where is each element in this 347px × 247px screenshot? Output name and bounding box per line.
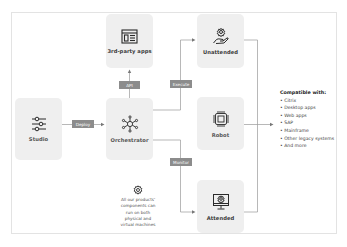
compatible-title: Compatible with: xyxy=(280,89,334,97)
edge-label-api: API xyxy=(119,81,140,89)
arrow-head-monitor xyxy=(192,210,196,213)
node-label: Studio xyxy=(29,136,48,142)
node-label: Orchestrator xyxy=(110,137,148,143)
node-label: Attended xyxy=(207,215,235,221)
compatible-list: Compatible with: • Citrix • Desktop apps… xyxy=(280,89,334,150)
hand-gear-icon xyxy=(212,27,230,45)
network-hub-icon xyxy=(121,115,139,133)
compatible-item: • Citrix xyxy=(280,97,334,105)
edge-label-deploy: Deploy xyxy=(72,120,94,128)
compatible-item: • Mainframe xyxy=(280,127,334,135)
arrow-head-api xyxy=(128,70,131,74)
chip-icon xyxy=(212,110,230,128)
arrow-head-compat xyxy=(270,123,274,126)
sliders-icon xyxy=(31,116,47,132)
compatible-item: • Web apps xyxy=(280,112,334,120)
node-orchestrator[interactable]: Orchestrator xyxy=(106,98,153,160)
compatible-item: • SAP xyxy=(280,119,334,127)
node-label: 3rd-party apps xyxy=(107,48,151,54)
edge-label-monitor: Monitor xyxy=(170,158,192,166)
edge-execute xyxy=(153,40,193,110)
node-label: Robot xyxy=(212,132,230,138)
compatible-item: • Desktop apps xyxy=(280,104,334,112)
arrow-head-deploy xyxy=(101,123,105,126)
note-line: virtual machines xyxy=(108,222,168,228)
node-attended[interactable]: Attended xyxy=(197,180,244,233)
node-robot[interactable]: Robot xyxy=(197,97,244,150)
node-unattended[interactable]: Unattended xyxy=(197,14,244,68)
edge-bracket-top xyxy=(244,40,258,212)
compatible-item: • And more xyxy=(280,142,334,150)
browser-window-icon xyxy=(121,29,138,44)
node-label: Unattended xyxy=(203,49,238,55)
node-studio[interactable]: Studio xyxy=(15,98,62,160)
arrow-head-execute xyxy=(192,38,196,41)
compatible-item: • Other legacy systems xyxy=(280,135,334,143)
note-block: All our products' components can run on … xyxy=(108,185,168,228)
edge-label-execute: Execute xyxy=(170,80,192,88)
monitor-gear-icon xyxy=(212,193,230,211)
gear-icon xyxy=(133,185,143,195)
node-third-party-apps[interactable]: 3rd-party apps xyxy=(106,14,153,68)
